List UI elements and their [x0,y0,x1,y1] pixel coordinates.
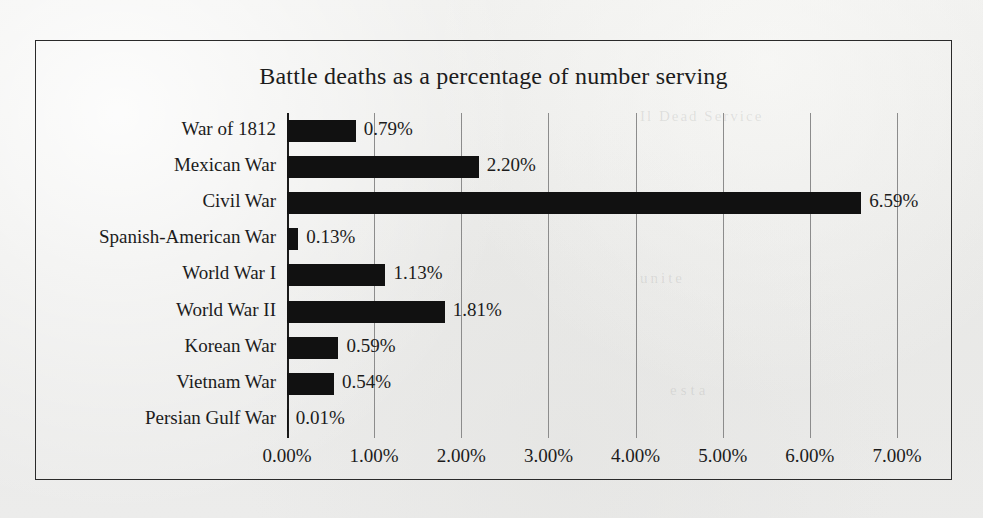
bar-row: Civil War6.59% [287,185,897,221]
x-tick-label: 5.00% [698,445,747,467]
category-label: Mexican War [174,154,276,176]
plot-area: War of 18120.79%Mexican War2.20%Civil Wa… [287,113,897,438]
category-label: World War I [182,262,276,284]
bar-value-label: 1.81% [453,299,502,321]
bar-value-label: 0.54% [342,371,391,393]
category-label: Korean War [185,335,277,357]
x-tick-label: 0.00% [262,445,311,467]
x-axis-tick-labels: 0.00%1.00%2.00%3.00%4.00%5.00%6.00%7.00% [287,445,897,475]
bar-value-label: 6.59% [869,190,918,212]
category-label: Persian Gulf War [145,407,276,429]
bar-value-label: 0.13% [306,226,355,248]
bar-row: Mexican War2.20% [287,149,897,185]
bar-row: Persian Gulf War0.01% [287,402,897,438]
chart-title: Battle deaths as a percentage of number … [36,63,951,90]
gridline [897,113,898,438]
x-tick-label: 3.00% [524,445,573,467]
bar-row: War of 18120.79% [287,113,897,149]
x-tick-label: 2.00% [437,445,486,467]
bar-row: Korean War0.59% [287,330,897,366]
bar-value-label: 2.20% [487,154,536,176]
bar[interactable] [287,156,479,178]
category-label: Civil War [202,190,276,212]
bar[interactable] [287,264,385,286]
bar-row: World War I1.13% [287,257,897,293]
bar-value-label: 0.01% [296,407,345,429]
bar[interactable] [287,192,861,214]
bar-value-label: 0.79% [364,118,413,140]
bar[interactable] [287,409,288,431]
bar[interactable] [287,120,356,142]
chart-frame: Battle deaths as a percentage of number … [35,40,952,480]
category-label: World War II [176,299,276,321]
bar[interactable] [287,373,334,395]
x-tick-label: 7.00% [872,445,921,467]
bar-value-label: 0.59% [346,335,395,357]
x-tick-label: 4.00% [611,445,660,467]
bar-row: Spanish-American War0.13% [287,221,897,257]
bar[interactable] [287,301,445,323]
category-label: War of 1812 [182,118,277,140]
bar-row: Vietnam War0.54% [287,366,897,402]
bar-value-label: 1.13% [393,262,442,284]
category-label: Spanish-American War [99,226,276,248]
x-tick-label: 1.00% [350,445,399,467]
bar[interactable] [287,228,298,250]
bar[interactable] [287,337,338,359]
bar-row: World War II1.81% [287,294,897,330]
x-tick-label: 6.00% [785,445,834,467]
category-label: Vietnam War [176,371,276,393]
